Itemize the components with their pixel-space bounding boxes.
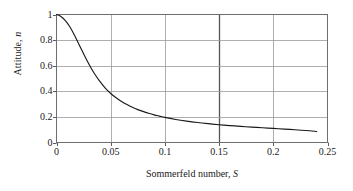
chart-figure: Attitude, n Sommerfeld number, S 00.20.4… xyxy=(0,0,353,191)
data-curve xyxy=(57,15,317,132)
plot-area xyxy=(0,0,353,191)
axis-ticks xyxy=(53,16,329,147)
